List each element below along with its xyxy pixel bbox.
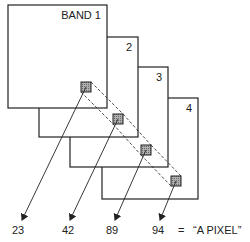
equals-sign: = <box>178 224 184 236</box>
band-label: 2 <box>126 41 132 53</box>
bands-layer: 432BAND 1 <box>8 5 198 199</box>
multispectral-pixel-diagram: 432BAND 1 23428994=“A PIXEL” <box>0 0 250 242</box>
band-label: 3 <box>156 71 162 83</box>
pixel-value: 23 <box>12 224 24 236</box>
diagram-svg: 432BAND 1 23428994=“A PIXEL” <box>0 0 250 242</box>
pixel-value: 89 <box>106 224 118 236</box>
band-1: BAND 1 <box>8 5 107 108</box>
pixel-value: 42 <box>62 224 74 236</box>
pixel-value: 94 <box>152 224 164 236</box>
pixel-caption: “A PIXEL” <box>193 224 242 236</box>
band-label: 4 <box>186 102 192 114</box>
band-label: BAND 1 <box>61 9 101 21</box>
value-labels: 23428994=“A PIXEL” <box>12 224 242 236</box>
